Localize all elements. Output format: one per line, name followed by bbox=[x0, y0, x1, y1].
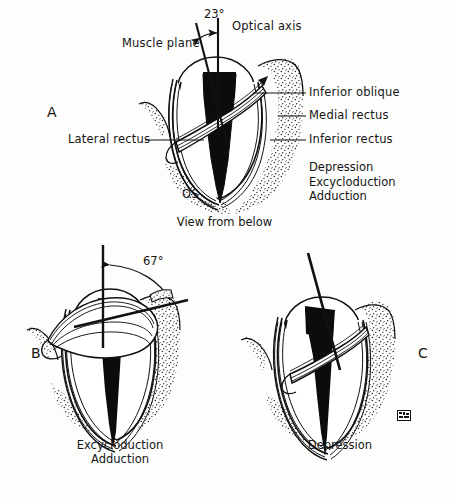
panel-b-artwork bbox=[27, 245, 188, 452]
panel-letter-c: C bbox=[418, 345, 428, 361]
panel-a-action-1: Depression bbox=[309, 160, 396, 175]
panel-c-action-1: Depression bbox=[250, 438, 430, 452]
panel-b-action-2: Adduction bbox=[30, 452, 210, 466]
optical-axis-label: Optical axis bbox=[232, 20, 302, 34]
panel-b-muscle-plane-line bbox=[74, 300, 188, 327]
eye-designation-os: OS bbox=[182, 188, 199, 202]
panel-a-action-3: Adduction bbox=[309, 189, 396, 204]
panel-c-artwork bbox=[241, 253, 395, 460]
medial-rectus-label: Medial rectus bbox=[309, 109, 389, 123]
panel-a-action-2: Excycloduction bbox=[309, 175, 396, 190]
figure-artwork bbox=[0, 0, 449, 502]
panel-c-caption: Depression bbox=[250, 438, 430, 452]
angle-label-67: 67° bbox=[143, 254, 163, 268]
inferior-rectus-label: Inferior rectus bbox=[309, 133, 393, 147]
angle-label-23: 23° bbox=[204, 7, 224, 21]
panel-a-actions: Depression Excycloduction Adduction bbox=[309, 160, 396, 204]
inferior-oblique-label: Inferior oblique bbox=[309, 86, 400, 100]
panel-letter-b: B bbox=[31, 345, 41, 361]
panel-b-caption: Excycloduction Adduction bbox=[30, 438, 210, 466]
muscle-plane-line bbox=[196, 23, 226, 139]
panel-letter-a: A bbox=[47, 104, 57, 120]
panel-a-view-caption: View from below bbox=[0, 215, 449, 229]
muscle-plane-label: Muscle plane bbox=[122, 37, 200, 51]
artist-signature-icon bbox=[397, 410, 411, 421]
lateral-rectus-label: Lateral rectus bbox=[68, 133, 150, 147]
anatomical-figure: A 23° Optical axis Muscle plane Inferior… bbox=[0, 0, 449, 502]
panel-c-axis-line bbox=[308, 253, 340, 370]
panel-b-action-1: Excycloduction bbox=[30, 438, 210, 452]
